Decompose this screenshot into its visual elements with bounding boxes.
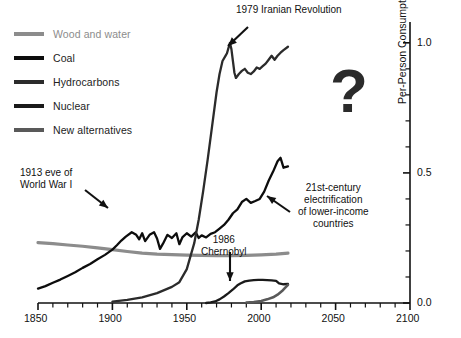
legend-item-label: New alternatives (53, 124, 132, 136)
legend-item-label: Nuclear (53, 100, 90, 112)
legend-item[interactable]: Wood and water (14, 22, 194, 46)
y-axis-tick-label: 0.5 (417, 166, 432, 178)
chart-page: Wood and waterCoalHydrocarbonsNuclearNew… (0, 0, 461, 338)
series-line-nuclear (206, 280, 288, 303)
x-axis-tick-label: 1950 (173, 312, 196, 324)
legend-item[interactable]: Coal (14, 46, 194, 70)
series-line-new-alternatives (246, 285, 288, 303)
x-axis-tick-label: 2100 (396, 312, 419, 324)
arrow-electrification-head (267, 196, 276, 204)
legend-swatch (14, 32, 44, 36)
legend-item-label: Hydrocarbons (53, 76, 120, 88)
annotation-world-war-one: 1913 eve of World War I (20, 167, 72, 191)
x-axis-tick-label: 2000 (247, 312, 270, 324)
arrow-iranian-revolution (228, 27, 248, 46)
annotation-chernobyl: 1986 Chernobyl (201, 234, 247, 258)
y-axis-tick-label: 1.0 (417, 36, 432, 48)
legend-item[interactable]: Hydrocarbons (14, 70, 194, 94)
legend-swatch (14, 56, 44, 60)
arrow-electrification (267, 196, 290, 212)
legend-item[interactable]: Nuclear (14, 94, 194, 118)
legend-item[interactable]: New alternatives (14, 118, 194, 142)
legend-item-label: Wood and water (53, 28, 131, 40)
legend-swatch (14, 104, 44, 108)
future-question-mark: ? (330, 60, 368, 122)
x-axis-tick-label: 1850 (24, 312, 47, 324)
series-line-coal (38, 158, 288, 289)
legend-swatch (14, 80, 44, 84)
legend-swatch (14, 128, 44, 132)
y-axis-label: Per-Person Consumption, toe (396, 0, 408, 104)
arrow-world-war-one (85, 190, 108, 208)
annotation-electrification: 21st-century electrification of lower-in… (298, 182, 369, 230)
legend-item-label: Coal (53, 52, 75, 64)
x-axis-tick-label: 1900 (98, 312, 121, 324)
arrow-chernobyl-head (226, 272, 233, 281)
x-axis-tick-label: 2050 (322, 312, 345, 324)
annotation-iranian-revolution: 1979 Iranian Revolution (236, 4, 342, 16)
chart-legend: Wood and waterCoalHydrocarbonsNuclearNew… (14, 22, 194, 142)
y-axis-tick-label: 0.0 (417, 296, 432, 308)
